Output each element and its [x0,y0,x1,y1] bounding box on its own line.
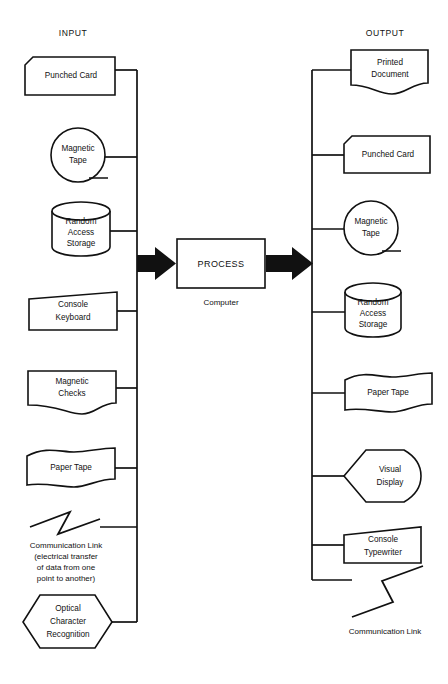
input-node-magnetic-tape-label-1: Magnetic [61,144,94,153]
input-node-ocr-label-2: Character [50,617,86,626]
output-node-ras-label-3: Storage [359,320,388,329]
output-node-random-access-storage[interactable]: Random Access Storage [345,283,401,337]
process-label: PROCESS [198,259,245,269]
input-node-console-keyboard-label-2: Keyboard [55,313,90,322]
diagram-canvas: INPUT OUTPUT PROCESS Computer Punched Ca… [0,0,448,684]
process-node[interactable]: PROCESS [177,239,265,288]
input-node-ras-label-2: Access [68,228,94,237]
input-node-random-access-storage[interactable]: Random Access Storage [52,202,110,256]
process-to-output-arrow [266,247,313,280]
input-node-comm-link-label-4: point to another) [37,574,96,583]
output-node-paper-tape-label: Paper Tape [367,388,409,397]
input-node-comm-link-label-2: (electrical transfer [34,552,98,561]
output-node-console-typewriter[interactable]: Console Typewriter [344,527,421,563]
input-node-comm-link-label-3: of data from one [37,563,96,572]
output-node-punched-card-label: Punched Card [362,150,415,159]
output-node-printed-document[interactable]: Printed Document [351,50,428,94]
input-node-punched-card-label: Punched Card [45,71,98,80]
input-node-ras-label-1: Random [66,217,97,226]
output-node-punched-card[interactable]: Punched Card [344,136,430,173]
output-node-magnetic-tape[interactable]: Magnetic Tape [344,201,401,255]
process-caption: Computer [203,298,238,307]
output-node-comm-link-label: Communication Link [349,627,422,636]
input-node-ocr-label-1: Optical [55,604,81,613]
input-to-process-arrow [137,247,176,280]
output-node-console-typewriter-label-1: Console [368,535,398,544]
output-node-magnetic-tape-label-2: Tape [362,229,380,238]
output-node-visual-display-label-2: Display [377,478,405,487]
input-node-paper-tape-label: Paper Tape [50,463,92,472]
input-node-ocr-label-3: Recognition [46,630,90,639]
output-node-ras-label-2: Access [360,309,386,318]
input-header: INPUT [59,28,88,38]
input-node-console-keyboard[interactable]: Console Keyboard [29,292,117,330]
input-node-magnetic-tape[interactable]: Magnetic Tape [51,128,108,182]
output-node-visual-display[interactable]: Visual Display [344,450,421,502]
input-node-communication-link[interactable]: Communication Link (electrical transfer … [30,512,103,583]
output-node-console-typewriter-label-2: Typewriter [364,548,402,557]
input-node-magnetic-tape-label-2: Tape [69,156,87,165]
input-node-magnetic-checks[interactable]: Magnetic Checks [28,371,116,414]
input-node-paper-tape[interactable]: Paper Tape [27,448,115,487]
output-node-magnetic-tape-label-1: Magnetic [354,217,387,226]
output-node-paper-tape[interactable]: Paper Tape [345,373,432,412]
input-node-comm-link-label-1: Communication Link [30,541,103,550]
output-node-visual-display-label-1: Visual [379,465,401,474]
output-node-ras-label-1: Random [358,298,389,307]
flowchart-diagram: INPUT OUTPUT PROCESS Computer Punched Ca… [0,0,448,684]
output-header: OUTPUT [366,28,405,38]
output-node-printed-document-label-1: Printed [377,58,403,67]
input-node-punched-card[interactable]: Punched Card [25,57,115,95]
input-node-magnetic-checks-label-1: Magnetic [55,377,88,386]
input-node-optical-character-recognition[interactable]: Optical Character Recognition [23,595,112,648]
input-node-magnetic-checks-label-2: Checks [58,389,85,398]
input-node-console-keyboard-label-1: Console [58,300,88,309]
input-node-ras-label-3: Storage [67,239,96,248]
output-node-communication-link[interactable]: Communication Link [349,566,423,636]
output-node-printed-document-label-2: Document [371,70,409,79]
